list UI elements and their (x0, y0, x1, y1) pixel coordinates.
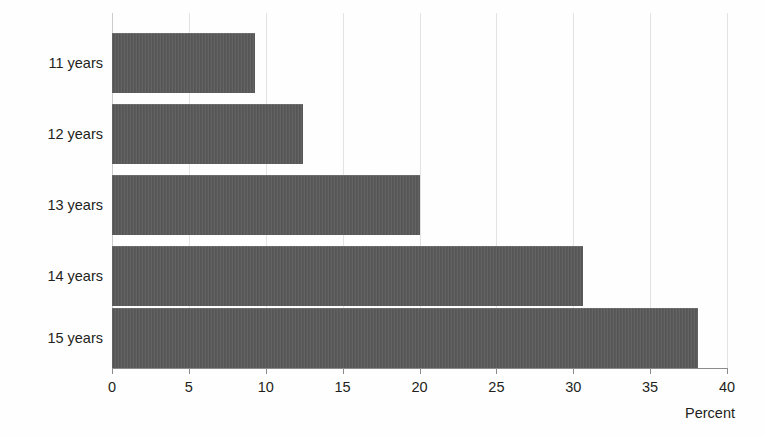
bar-11-years (112, 33, 255, 93)
tick-mark-30 (573, 368, 574, 374)
tick-mark-15 (343, 368, 344, 374)
category-label-0: 11 years (7, 55, 103, 71)
category-label-2: 13 years (7, 197, 103, 213)
category-axis-labels: 11 years 12 years 13 years 14 years 15 y… (0, 0, 103, 437)
x-tick-label-6: 30 (553, 378, 593, 396)
tick-mark-0 (112, 368, 113, 374)
tick-mark-40 (727, 368, 728, 374)
x-tick-label-5: 25 (476, 378, 516, 396)
x-tick-label-0: 0 (92, 378, 132, 396)
x-tick-label-8: 40 (707, 378, 747, 396)
bar-14-years (112, 246, 583, 306)
x-tick-label-1: 5 (169, 378, 209, 396)
x-tick-label-3: 15 (323, 378, 363, 396)
bar-chart: 11 years 12 years 13 years 14 years 15 y… (0, 0, 765, 437)
x-tick-label-7: 35 (630, 378, 670, 396)
bar-15-years (112, 308, 698, 368)
tick-mark-25 (496, 368, 497, 374)
bar-12-years (112, 104, 303, 164)
x-tick-label-4: 20 (400, 378, 440, 396)
bar-13-years (112, 175, 420, 235)
category-label-1: 12 years (7, 126, 103, 142)
tick-mark-10 (266, 368, 267, 374)
tick-mark-20 (420, 368, 421, 374)
tick-mark-5 (189, 368, 190, 374)
tick-mark-35 (650, 368, 651, 374)
x-tick-label-2: 10 (246, 378, 286, 396)
x-axis-title: Percent (685, 404, 735, 422)
category-label-4: 15 years (7, 330, 103, 346)
category-label-3: 14 years (7, 268, 103, 284)
